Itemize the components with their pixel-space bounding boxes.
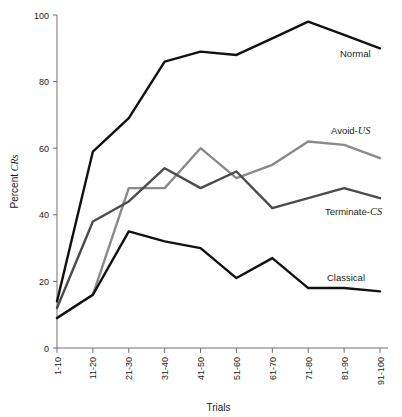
x-tick-label: 91-100 — [376, 357, 386, 385]
y-tick-label: 40 — [39, 210, 49, 220]
x-axis-title: Trials — [206, 402, 230, 413]
series-label-terminate-cs: Terminate-CS — [325, 206, 383, 217]
y-axis-title: Percent CRs — [9, 154, 20, 208]
x-tick-label: 1-10 — [53, 357, 63, 375]
x-tick-label: 51-60 — [232, 357, 242, 380]
x-tick-label: 41-50 — [196, 357, 206, 380]
y-tick-label: 20 — [39, 277, 49, 287]
line-chart: 0204060801001-1011-2021-3031-4041-5051-6… — [0, 0, 402, 417]
x-tick-label: 81-90 — [340, 357, 350, 380]
x-tick-label: 61-70 — [268, 357, 278, 380]
y-tick-label: 0 — [44, 344, 49, 354]
y-tick-label: 100 — [34, 11, 49, 21]
x-tick-label: 71-80 — [304, 357, 314, 380]
series-line-avoid-us — [57, 142, 380, 318]
series-label-classical: Classical — [327, 272, 365, 283]
series-label-normal: Normal — [340, 48, 371, 59]
chart-container: 0204060801001-1011-2021-3031-4041-5051-6… — [0, 0, 402, 417]
y-tick-label: 80 — [39, 77, 49, 87]
x-tick-label: 31-40 — [160, 357, 170, 380]
x-tick-label: 11-20 — [88, 357, 98, 379]
y-tick-label: 60 — [39, 144, 49, 154]
series-label-avoid-us: Avoid-US — [331, 125, 371, 136]
x-tick-label: 21-30 — [124, 357, 134, 380]
